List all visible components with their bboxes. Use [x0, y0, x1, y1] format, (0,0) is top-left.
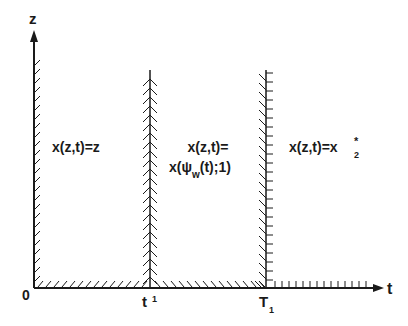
region-middle-label: x(z,t)= x(ψw(t);1)	[169, 139, 231, 180]
svg-text:x(z,t)=: x(z,t)=	[188, 139, 229, 155]
t-axis-label: t	[387, 280, 393, 297]
svg-text:x(z,t)=x: x(z,t)=x	[289, 139, 338, 155]
z-axis	[30, 30, 40, 288]
svg-text:1: 1	[269, 305, 274, 315]
svg-text:x(z,t)=z: x(z,t)=z	[52, 139, 100, 155]
svg-text:2: 2	[354, 150, 359, 160]
region-right-label: x(z,t)=x 2 *	[289, 135, 359, 160]
boundary-t1	[143, 70, 157, 288]
svg-text:*: *	[354, 135, 359, 147]
svg-text:t: t	[142, 293, 147, 310]
t-axis	[34, 281, 384, 292]
diagram-canvas: z	[0, 0, 408, 326]
tick-label-T1: T 1	[259, 293, 274, 315]
z-axis-label: z	[29, 10, 37, 27]
tick-label-t1: t 1	[142, 293, 157, 310]
z-axis-arrow-icon	[30, 30, 38, 42]
t-axis-arrow-icon	[373, 284, 384, 292]
boundary-T1	[255, 70, 273, 288]
svg-text:T: T	[259, 293, 268, 310]
svg-text:x(ψw(t);1): x(ψw(t);1)	[169, 159, 231, 180]
origin-label: 0	[22, 287, 30, 303]
region-left-label: x(z,t)=z	[52, 139, 100, 155]
svg-text:1: 1	[152, 294, 157, 304]
